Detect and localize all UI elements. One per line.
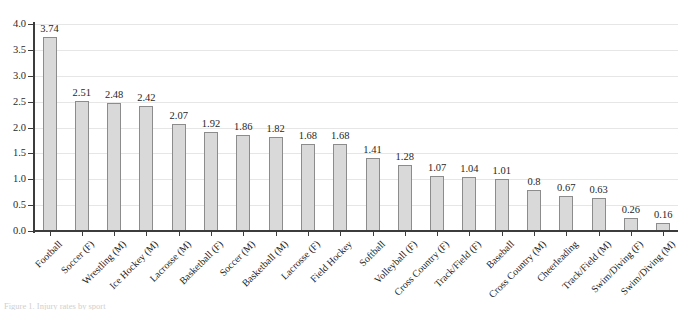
y-tick-label: 4.0 [2,19,26,30]
bar-value-label: 0.63 [581,185,617,196]
bar-chart: 0.00.51.01.52.02.53.03.54.0 3.742.512.48… [0,0,689,310]
bar [204,132,218,231]
x-tick-mark [179,232,180,236]
x-tick-mark [308,232,309,236]
bar [559,196,573,231]
x-tick-mark [373,232,374,236]
bar [139,106,153,231]
x-tick-mark [663,232,664,236]
y-tick-mark [28,179,33,180]
bar [301,144,315,231]
bar-value-label: 1.68 [290,131,326,142]
x-tick-mark [114,232,115,236]
bar [333,144,347,231]
gridline [33,76,678,77]
x-tick-mark [211,232,212,236]
bar-value-label: 3.74 [32,24,68,35]
y-tick-mark [28,102,33,103]
x-tick-mark [50,232,51,236]
bar-value-label: 1.86 [225,122,261,133]
bar-value-label: 1.92 [193,119,229,130]
gridline [33,24,678,25]
bar-value-label: 0.16 [645,210,681,221]
y-tick-mark [28,50,33,51]
gridline [33,179,678,180]
y-tick-mark [28,76,33,77]
plot-area [33,24,678,231]
x-tick-mark [405,232,406,236]
bar-value-label: 2.07 [161,111,197,122]
bar [624,218,638,231]
gridline [33,50,678,51]
bar [430,176,444,231]
bar-value-label: 1.07 [419,163,455,174]
bar-value-label: 1.28 [387,152,423,163]
y-tick-mark [28,205,33,206]
x-tick-mark [502,232,503,236]
x-tick-mark [243,232,244,236]
x-tick-mark [276,232,277,236]
y-tick-label: 2.5 [2,97,26,108]
x-axis-line [33,230,678,232]
bar [236,135,250,231]
bar-value-label: 2.42 [128,93,164,104]
bar [398,165,412,231]
figure-caption-clipped: Figure 1. Injury rates by sport [4,302,604,310]
x-tick-mark [340,232,341,236]
gridline [33,205,678,206]
figure-caption-text: Figure 1. Injury rates by sport [4,302,604,310]
bar [592,198,606,231]
y-tick-label: 0.5 [2,200,26,211]
bar [366,158,380,231]
bar-value-label: 1.41 [355,145,391,156]
bar [43,37,57,231]
y-tick-label: 2.0 [2,123,26,134]
bar [495,179,509,231]
y-tick-label: 3.0 [2,71,26,82]
bar [172,124,186,231]
x-tick-mark [534,232,535,236]
x-tick-mark [599,232,600,236]
y-axis-line [33,22,35,233]
bar-value-label: 1.04 [451,164,487,175]
x-tick-mark [437,232,438,236]
y-tick-label: 0.0 [2,226,26,237]
x-tick-mark [631,232,632,236]
y-tick-label: 1.0 [2,174,26,185]
bar [269,137,283,231]
bar [107,103,121,231]
y-tick-label: 1.5 [2,148,26,159]
y-tick-label: 3.5 [2,45,26,56]
x-tick-mark [469,232,470,236]
y-tick-mark [28,128,33,129]
y-tick-mark [28,231,33,232]
bar-value-label: 1.82 [258,124,294,135]
bar-value-label: 2.48 [96,90,132,101]
bar-value-label: 0.8 [516,177,552,188]
x-tick-mark [82,232,83,236]
x-tick-mark [146,232,147,236]
bar-value-label: 1.01 [484,166,520,177]
x-tick-mark [566,232,567,236]
bar-value-label: 1.68 [322,131,358,142]
bar-value-label: 0.67 [548,183,584,194]
y-tick-mark [28,153,33,154]
bar-value-label: 0.26 [613,205,649,216]
bar [75,101,89,231]
gridline [33,128,678,129]
bar-value-label: 2.51 [64,88,100,99]
bar [527,190,541,231]
bar [462,177,476,231]
